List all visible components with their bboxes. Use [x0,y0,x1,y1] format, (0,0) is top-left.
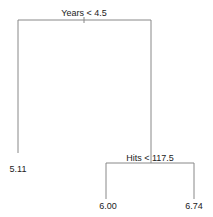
leaf-label-middle: 6.00 [99,201,117,211]
regression-tree: Years < 4.5 5.11 Hits < 117.5 6.00 6.74 [0,0,213,217]
root-split-label: Years < 4.5 [61,8,106,18]
internal-split-label: Hits < 117.5 [126,153,174,163]
leaf-label-left: 5.11 [10,164,27,174]
leaf-label-right: 6.74 [185,201,203,211]
